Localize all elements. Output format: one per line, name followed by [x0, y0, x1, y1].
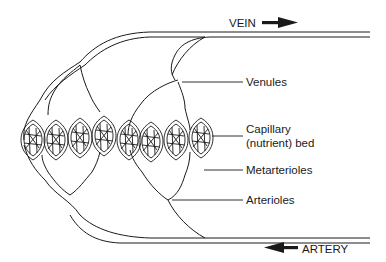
arterioles-label: Arterioles — [246, 194, 295, 206]
capillary-label-line1: Capillary — [246, 123, 291, 135]
vein-arrow-icon — [262, 17, 298, 28]
venules-label: Venules — [246, 76, 287, 88]
capillary-diagram — [0, 0, 386, 262]
capillary-label-line2: (nutrient) bed — [246, 137, 314, 149]
artery-label: ARTERY — [302, 243, 348, 255]
metarterioles-label: Metarterioles — [246, 164, 312, 176]
artery-arrow-icon — [264, 242, 298, 253]
vein-label: VEIN — [229, 17, 256, 29]
vessel-network — [24, 32, 370, 243]
capillary-beds — [21, 116, 213, 162]
